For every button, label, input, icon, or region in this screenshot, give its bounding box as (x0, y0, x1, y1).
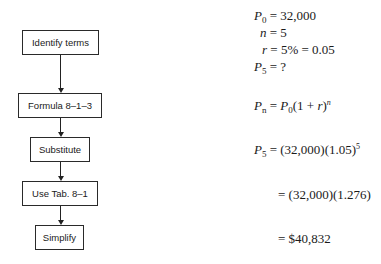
substitute-line: P5 = (32,000)(1.05)5 (254, 143, 360, 156)
step-label: Simplify (43, 232, 76, 243)
step-label: Use Tab. 8–1 (32, 188, 88, 199)
connector-line (60, 118, 61, 132)
given-p0: P0 = 32,000 (254, 9, 316, 22)
step-simplify: Simplify (35, 225, 84, 250)
given-p5: P5 = ? (254, 60, 286, 73)
step-identify-terms: Identify terms (22, 30, 99, 55)
given-n: n = 5 (260, 26, 287, 39)
connector-line (60, 206, 61, 220)
connector-line (60, 55, 61, 88)
result-line: = $40,832 (278, 232, 331, 245)
step-formula: Formula 8–1–3 (18, 93, 102, 118)
formula-line: Pn = P0(1 + r)n (254, 99, 331, 112)
table-line: = (32,000)(1.276) (278, 188, 371, 201)
step-label: Substitute (39, 144, 81, 155)
connector-line (60, 162, 61, 176)
given-r: r = 5% = 0.05 (262, 43, 335, 56)
step-label: Identify terms (32, 37, 89, 48)
step-use-table: Use Tab. 8–1 (22, 181, 98, 206)
step-label: Formula 8–1–3 (28, 100, 92, 111)
step-substitute: Substitute (30, 137, 90, 162)
